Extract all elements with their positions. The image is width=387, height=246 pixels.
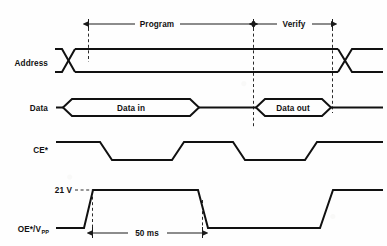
waveform-ce bbox=[56, 142, 383, 160]
phase-dimension-program: Program bbox=[89, 20, 252, 29]
voltage-marker-21v: 21 V bbox=[55, 186, 93, 195]
phase-dimension-verify: Verify bbox=[255, 20, 331, 29]
duration-marker-50ms: 50 ms bbox=[93, 227, 203, 238]
phase-label-verify: Verify bbox=[283, 20, 306, 29]
timing-diagram-canvas: Program Verify Address bbox=[0, 0, 387, 246]
waveform-data: Data in Data out bbox=[56, 99, 383, 116]
voltage-marker-label: 21 V bbox=[55, 186, 73, 195]
waveform-oe-vpp bbox=[56, 190, 383, 228]
phase-label-program: Program bbox=[140, 20, 174, 29]
signal-label-data: Data bbox=[30, 104, 48, 113]
signal-label-address: Address bbox=[15, 59, 49, 68]
waveform-address bbox=[55, 49, 383, 72]
data-packet-label-in: Data in bbox=[117, 104, 145, 113]
duration-marker-label: 50 ms bbox=[135, 229, 159, 238]
signal-label-ce: CE* bbox=[33, 146, 49, 155]
dashed-guides bbox=[89, 28, 333, 234]
data-packet-label-out: Data out bbox=[276, 104, 310, 113]
signal-label-oe-vpp: OE*/V bbox=[18, 225, 42, 234]
signal-label-oe-vpp-group: OE*/V PP bbox=[18, 225, 49, 235]
timing-diagram-figure: Program Verify Address bbox=[0, 0, 387, 246]
signal-label-oe-vpp-subscript: PP bbox=[42, 229, 50, 235]
